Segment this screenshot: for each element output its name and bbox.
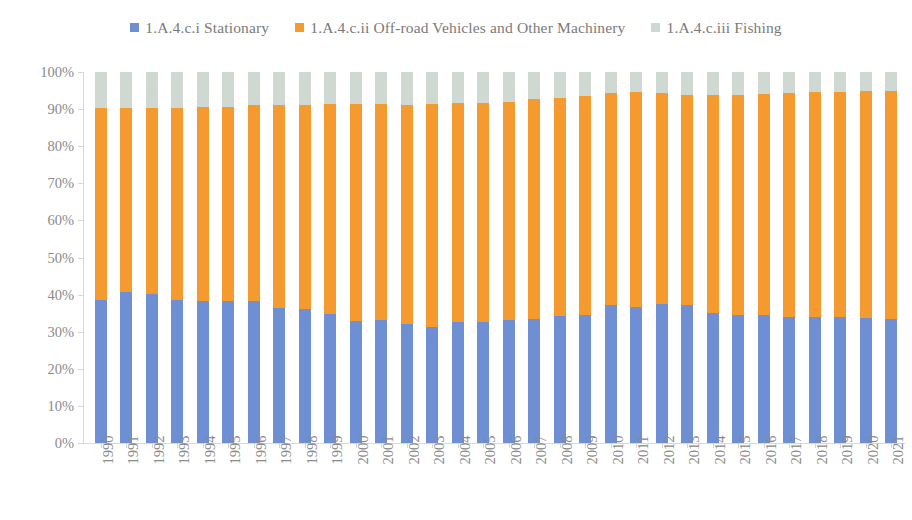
bar-segment[interactable] xyxy=(273,72,285,105)
bar-segment[interactable] xyxy=(248,105,260,301)
bar-segment[interactable] xyxy=(477,72,489,103)
bar-segment[interactable] xyxy=(299,72,311,105)
bar-segment[interactable] xyxy=(146,72,158,108)
bar-segment[interactable] xyxy=(95,108,107,300)
bar-segment[interactable] xyxy=(860,318,872,443)
bar-segment[interactable] xyxy=(681,95,693,305)
bar-segment[interactable] xyxy=(171,300,183,443)
bar-segment[interactable] xyxy=(528,72,540,99)
bar-segment[interactable] xyxy=(222,301,234,443)
bar-column[interactable] xyxy=(88,72,114,443)
bar-segment[interactable] xyxy=(350,72,362,104)
bar-segment[interactable] xyxy=(579,315,591,443)
bar-column[interactable] xyxy=(318,72,344,443)
bar-segment[interactable] xyxy=(452,103,464,322)
bar-segment[interactable] xyxy=(885,319,897,443)
bar-column[interactable] xyxy=(522,72,548,443)
bar-segment[interactable] xyxy=(477,322,489,443)
bar-segment[interactable] xyxy=(273,105,285,308)
bar-column[interactable] xyxy=(241,72,267,443)
bar-segment[interactable] xyxy=(503,72,515,102)
bar-column[interactable] xyxy=(700,72,726,443)
bar-column[interactable] xyxy=(445,72,471,443)
bar-column[interactable] xyxy=(471,72,497,443)
bar-column[interactable] xyxy=(828,72,854,443)
bar-column[interactable] xyxy=(420,72,446,443)
bar-segment[interactable] xyxy=(146,108,158,294)
bar-segment[interactable] xyxy=(273,308,285,443)
bar-segment[interactable] xyxy=(95,72,107,108)
bar-segment[interactable] xyxy=(426,104,438,327)
bar-column[interactable] xyxy=(343,72,369,443)
bar-column[interactable] xyxy=(369,72,395,443)
bar-segment[interactable] xyxy=(834,72,846,92)
bar-segment[interactable] xyxy=(299,105,311,309)
bar-column[interactable] xyxy=(853,72,879,443)
bar-column[interactable] xyxy=(216,72,242,443)
bar-segment[interactable] xyxy=(222,107,234,301)
bar-segment[interactable] xyxy=(707,95,719,314)
bar-segment[interactable] xyxy=(554,98,566,317)
bar-segment[interactable] xyxy=(324,104,336,314)
bar-segment[interactable] xyxy=(732,95,744,315)
bar-segment[interactable] xyxy=(401,72,413,105)
bar-segment[interactable] xyxy=(95,300,107,443)
bar-segment[interactable] xyxy=(528,319,540,443)
bar-segment[interactable] xyxy=(758,94,770,315)
bar-column[interactable] xyxy=(802,72,828,443)
bar-segment[interactable] xyxy=(605,93,617,304)
legend-item[interactable]: 1.A.4.c.ii Off-road Vehicles and Other M… xyxy=(295,20,625,36)
bar-segment[interactable] xyxy=(656,93,668,304)
bar-column[interactable] xyxy=(751,72,777,443)
bar-column[interactable] xyxy=(879,72,905,443)
bar-segment[interactable] xyxy=(630,307,642,443)
bar-segment[interactable] xyxy=(656,304,668,443)
bar-segment[interactable] xyxy=(783,317,795,444)
bar-segment[interactable] xyxy=(197,72,209,107)
bar-segment[interactable] xyxy=(120,108,132,291)
bar-segment[interactable] xyxy=(707,313,719,443)
bar-segment[interactable] xyxy=(120,292,132,443)
bar-column[interactable] xyxy=(139,72,165,443)
bar-column[interactable] xyxy=(649,72,675,443)
bar-column[interactable] xyxy=(267,72,293,443)
bar-column[interactable] xyxy=(496,72,522,443)
bar-segment[interactable] xyxy=(477,103,489,322)
bar-segment[interactable] xyxy=(375,104,387,320)
bar-segment[interactable] xyxy=(120,72,132,108)
bar-segment[interactable] xyxy=(809,317,821,444)
bar-segment[interactable] xyxy=(503,102,515,320)
bar-segment[interactable] xyxy=(452,72,464,103)
bar-segment[interactable] xyxy=(324,72,336,104)
bar-segment[interactable] xyxy=(707,72,719,95)
bar-segment[interactable] xyxy=(554,316,566,443)
bar-segment[interactable] xyxy=(579,72,591,96)
bar-column[interactable] xyxy=(547,72,573,443)
bar-segment[interactable] xyxy=(579,96,591,316)
bar-segment[interactable] xyxy=(222,72,234,107)
bar-segment[interactable] xyxy=(503,320,515,443)
bar-column[interactable] xyxy=(675,72,701,443)
bar-column[interactable] xyxy=(190,72,216,443)
bar-column[interactable] xyxy=(292,72,318,443)
bar-segment[interactable] xyxy=(171,108,183,301)
bar-segment[interactable] xyxy=(324,314,336,443)
bar-segment[interactable] xyxy=(732,72,744,95)
bar-column[interactable] xyxy=(394,72,420,443)
bar-segment[interactable] xyxy=(171,72,183,108)
bar-column[interactable] xyxy=(624,72,650,443)
bar-segment[interactable] xyxy=(146,294,158,443)
bar-column[interactable] xyxy=(726,72,752,443)
bar-segment[interactable] xyxy=(681,305,693,443)
bar-segment[interactable] xyxy=(885,72,897,91)
bar-segment[interactable] xyxy=(248,301,260,443)
bar-segment[interactable] xyxy=(350,321,362,443)
bar-segment[interactable] xyxy=(350,104,362,322)
bar-segment[interactable] xyxy=(528,99,540,319)
bar-segment[interactable] xyxy=(605,72,617,93)
bar-segment[interactable] xyxy=(834,317,846,443)
legend-item[interactable]: 1.A.4.c.i Stationary xyxy=(130,20,269,36)
legend-item[interactable]: 1.A.4.c.iii Fishing xyxy=(651,20,781,36)
bar-segment[interactable] xyxy=(605,305,617,443)
bar-segment[interactable] xyxy=(197,107,209,301)
